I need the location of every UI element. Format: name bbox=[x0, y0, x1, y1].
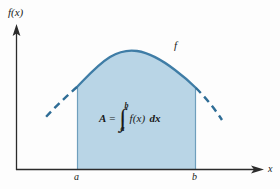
formula-area-symbol: A bbox=[99, 113, 106, 124]
formula-equals-sign: = bbox=[109, 113, 115, 124]
x-axis-label: x bbox=[268, 164, 272, 174]
integral-operator: b ∫ a bbox=[120, 103, 127, 133]
integral-formula: A = b ∫ a f(x) dx bbox=[99, 103, 161, 133]
curve-dashed-extension-right bbox=[196, 88, 222, 120]
x-tick-label-b: b bbox=[192, 172, 197, 182]
formula-differential: dx bbox=[150, 113, 161, 124]
x-tick-label-a: a bbox=[74, 172, 79, 182]
area-under-curve-figure: f(x) x f a b A = b ∫ a f(x) dx bbox=[0, 0, 280, 189]
figure-canvas bbox=[0, 0, 280, 189]
curve-dashed-extension-left bbox=[45, 87, 77, 118]
integral-lower-limit: a bbox=[121, 125, 125, 133]
curve-label-f: f bbox=[174, 40, 177, 51]
formula-integrand: f(x) bbox=[129, 113, 145, 124]
y-axis-label: f(x) bbox=[8, 7, 23, 18]
